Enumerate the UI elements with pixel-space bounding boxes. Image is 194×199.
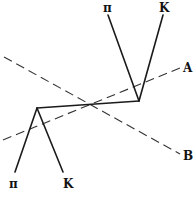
upper-pi-label: π: [103, 1, 112, 15]
lower-pi-label: π: [9, 177, 18, 191]
upper-k-track: [139, 15, 163, 101]
connecting-track: [37, 101, 139, 108]
upper-pi-track: [108, 15, 139, 101]
axis-a-label: A: [182, 61, 193, 75]
decay-diagram: π K π K A B: [0, 0, 194, 199]
lower-pi-track: [15, 108, 37, 172]
lower-k-label: K: [63, 177, 74, 191]
axis-b-label: B: [183, 149, 193, 163]
axis-b-line: [4, 57, 180, 154]
upper-k-label: K: [159, 1, 170, 15]
